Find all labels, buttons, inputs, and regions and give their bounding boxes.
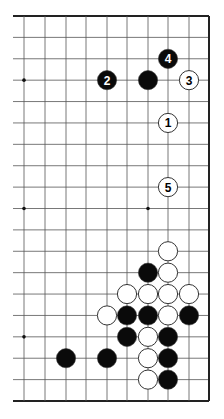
- white-stone: [117, 284, 136, 303]
- white-stone: 1: [158, 113, 177, 132]
- stone-disc: [138, 327, 157, 346]
- move-number: 5: [165, 181, 172, 195]
- black-stone: [158, 349, 177, 368]
- white-stone: [138, 327, 157, 346]
- black-stone: [138, 306, 157, 325]
- star-point: [22, 207, 26, 211]
- white-stone: [179, 284, 198, 303]
- stone-disc: [138, 306, 157, 325]
- stone-disc: [138, 370, 157, 389]
- white-stone: [138, 349, 157, 368]
- stone-disc: [158, 306, 177, 325]
- black-stone: [158, 327, 177, 346]
- stone-disc: [179, 306, 198, 325]
- black-stone: [117, 327, 136, 346]
- white-stone: [138, 370, 157, 389]
- move-number: 4: [165, 52, 172, 66]
- stone-disc: [138, 349, 157, 368]
- white-stone: [158, 242, 177, 261]
- go-board: 24315: [0, 0, 224, 419]
- stone-disc: [138, 71, 157, 90]
- stone-disc: [117, 306, 136, 325]
- stone-disc: [117, 284, 136, 303]
- star-point: [22, 78, 26, 82]
- black-stone: [56, 349, 75, 368]
- white-stone: [158, 263, 177, 282]
- white-stone: 3: [179, 71, 198, 90]
- stone-disc: [158, 370, 177, 389]
- black-stone: [138, 263, 157, 282]
- black-stone: [117, 306, 136, 325]
- black-stone: [158, 370, 177, 389]
- white-stone: [97, 306, 116, 325]
- star-point: [146, 207, 150, 211]
- stone-disc: [97, 306, 116, 325]
- stone-disc: [158, 242, 177, 261]
- stone-disc: [158, 349, 177, 368]
- move-number: 3: [186, 74, 193, 88]
- white-stone: 5: [158, 178, 177, 197]
- black-stone: [97, 349, 116, 368]
- stone-disc: [56, 349, 75, 368]
- stone-disc: [97, 349, 116, 368]
- black-stone: 2: [97, 71, 116, 90]
- stone-disc: [138, 263, 157, 282]
- stone-disc: [138, 284, 157, 303]
- star-point: [22, 335, 26, 339]
- stone-disc: [158, 284, 177, 303]
- go-diagram: 24315: [0, 0, 224, 419]
- black-stone: 4: [158, 49, 177, 68]
- move-number: 1: [165, 116, 172, 130]
- stone-disc: [117, 327, 136, 346]
- black-stone: [138, 71, 157, 90]
- stones-layer: 24315: [56, 49, 198, 389]
- stone-disc: [179, 284, 198, 303]
- stone-disc: [158, 263, 177, 282]
- stone-disc: [158, 327, 177, 346]
- white-stone: [138, 284, 157, 303]
- black-stone: [179, 306, 198, 325]
- white-stone: [158, 284, 177, 303]
- white-stone: [158, 306, 177, 325]
- move-number: 2: [104, 74, 111, 88]
